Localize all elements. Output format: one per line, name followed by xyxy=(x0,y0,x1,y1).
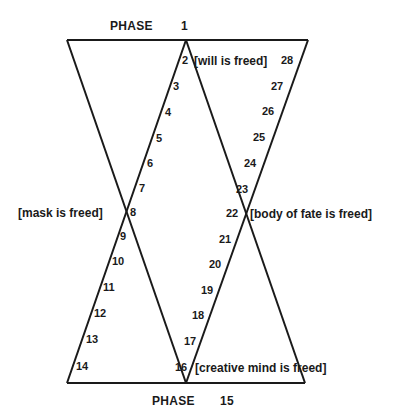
phase-label-bottom: PHASE xyxy=(152,395,195,407)
phase-26: 26 xyxy=(262,106,274,117)
annotation-body-of-fate-freed: [body of fate is freed] xyxy=(250,208,372,220)
phase-24: 24 xyxy=(244,158,256,169)
phase-21: 21 xyxy=(219,234,231,245)
phase-22: 22 xyxy=(226,208,238,219)
phase-12: 12 xyxy=(94,308,106,319)
phase-5: 5 xyxy=(156,133,162,144)
annotation-mask-freed: [mask is freed] xyxy=(18,207,103,219)
phase-27: 27 xyxy=(271,81,283,92)
phase-16: 16 xyxy=(175,362,187,373)
phase-number-15: 15 xyxy=(220,395,234,407)
phase-28: 28 xyxy=(281,55,293,66)
phase-7: 7 xyxy=(139,183,145,194)
phase-2: 2 xyxy=(182,55,188,66)
phase-20: 20 xyxy=(209,259,221,270)
phase-18: 18 xyxy=(192,310,204,321)
phase-6: 6 xyxy=(147,158,153,169)
phase-label-top: PHASE xyxy=(110,20,153,32)
phase-8: 8 xyxy=(130,207,136,218)
phase-19: 19 xyxy=(201,285,213,296)
phase-14: 14 xyxy=(76,361,88,372)
phase-10: 10 xyxy=(112,256,124,267)
phase-4: 4 xyxy=(165,107,171,118)
phase-23: 23 xyxy=(236,184,248,195)
phase-9: 9 xyxy=(120,231,126,242)
phase-17: 17 xyxy=(184,336,196,347)
phase-diagram: PHASE 1 PHASE 15 2 3 4 5 6 7 8 9 10 11 1… xyxy=(0,0,415,419)
phase-13: 13 xyxy=(86,334,98,345)
annotation-creative-mind-freed: [creative mind is freed] xyxy=(195,362,326,374)
annotation-will-freed: [will is freed] xyxy=(194,55,267,67)
phase-3: 3 xyxy=(173,81,179,92)
phase-25: 25 xyxy=(253,132,265,143)
phase-number-1: 1 xyxy=(181,20,188,32)
phase-11: 11 xyxy=(103,282,115,293)
